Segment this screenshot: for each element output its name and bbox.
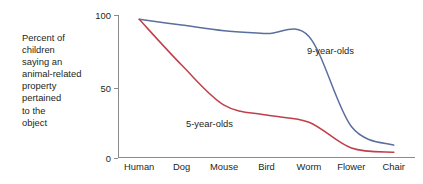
x-axis-label-bird: Bird <box>245 161 287 175</box>
series-line-5-year-olds <box>139 19 394 152</box>
x-axis-label-human: Human <box>118 161 160 175</box>
x-axis-label-chair: Chair <box>373 161 415 175</box>
plot-area: 100 50 0 <box>118 15 415 158</box>
x-axis-label-mouse: Mouse <box>203 161 245 175</box>
y-axis-caption-line: property <box>22 80 102 92</box>
x-axis-label-worm: Worm <box>288 161 330 175</box>
y-tick-label-100: 100 <box>95 10 111 21</box>
y-tick-label-0: 0 <box>106 153 111 164</box>
y-tick-label-50: 50 <box>101 83 111 94</box>
x-axis-labels: Human Dog Mouse Bird Worm Flower Chair <box>118 161 415 175</box>
y-axis-caption-line: saying an <box>22 56 102 68</box>
y-axis-caption-line: Percent of <box>22 32 102 44</box>
y-axis-caption-line: animal-related <box>22 68 102 80</box>
y-axis-caption: Percent of children saying an animal-rel… <box>22 32 102 129</box>
series-curves <box>118 15 415 158</box>
series-annotation-5-year-olds: 5-year-olds <box>186 118 233 129</box>
chart-figure: Percent of children saying an animal-rel… <box>0 0 423 184</box>
y-axis-caption-line: pertained <box>22 92 102 104</box>
series-annotation-9-year-olds: 9-year-olds <box>307 45 354 56</box>
series-line-9-year-olds <box>139 19 394 145</box>
x-axis-label-dog: Dog <box>160 161 202 175</box>
y-axis-caption-line: object <box>22 117 102 129</box>
y-axis-caption-line: to the <box>22 105 102 117</box>
y-tick-mark-0 <box>114 158 118 159</box>
x-axis-label-flower: Flower <box>330 161 372 175</box>
y-axis-caption-line: children <box>22 44 102 56</box>
